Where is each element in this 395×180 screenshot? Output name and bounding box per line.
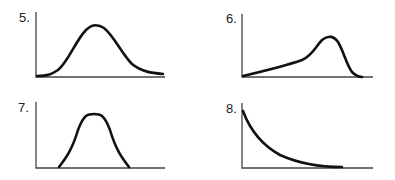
panel-5-curve — [37, 25, 163, 76]
charts-canvas — [0, 0, 395, 180]
chart-panel-5 — [36, 12, 165, 77]
chart-panel-8 — [242, 103, 373, 168]
chart-panel-6 — [242, 14, 373, 77]
panel-7-curve — [59, 114, 129, 167]
chart-panel-7 — [36, 102, 165, 168]
panel-5-axes — [36, 12, 165, 77]
panel-8-curve — [243, 111, 342, 167]
panel-7-axes — [36, 102, 165, 168]
panel-6-axes — [242, 14, 373, 77]
panel-6-curve — [243, 37, 362, 77]
panel-8-axes — [242, 103, 373, 168]
